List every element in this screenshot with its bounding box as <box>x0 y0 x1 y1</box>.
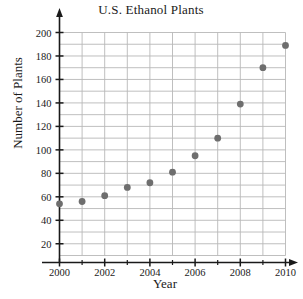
data-point <box>101 192 108 199</box>
data-point <box>79 198 86 205</box>
x-axis-tick-label: 2004 <box>130 267 170 278</box>
x-axis-tick-label: 2006 <box>175 267 215 278</box>
y-axis-tick-label: 20 <box>18 238 52 249</box>
y-axis-arrow-icon <box>56 8 63 17</box>
data-point <box>282 42 289 49</box>
data-point <box>237 101 244 108</box>
chart-container: U.S. Ethanol Plants Number of Plants Yea… <box>0 0 302 299</box>
data-point <box>147 179 154 186</box>
y-axis-tick-label: 60 <box>18 191 52 202</box>
y-axis-tick-label: 80 <box>18 168 52 179</box>
y-axis-tick-label: 100 <box>18 144 52 155</box>
y-axis-tick-label: 120 <box>18 121 52 132</box>
y-axis-tick-label: 180 <box>18 50 52 61</box>
x-axis-tick-label: 2010 <box>266 267 303 278</box>
x-axis-tick-label: 2000 <box>40 267 80 278</box>
y-axis-tick-label: 200 <box>18 27 52 38</box>
data-point <box>169 169 176 176</box>
data-point <box>56 200 63 207</box>
data-point <box>192 152 199 159</box>
x-axis-tick-label: 2008 <box>220 267 260 278</box>
gridlines <box>60 33 286 256</box>
data-point <box>214 135 221 142</box>
y-axis-tick-label: 160 <box>18 74 52 85</box>
data-point <box>124 184 131 191</box>
y-axis-tick-label: 40 <box>18 215 52 226</box>
axes <box>42 8 298 266</box>
x-axis-arrow-icon <box>289 259 298 266</box>
x-axis-tick-label: 2002 <box>85 267 125 278</box>
y-axis-tick-label: 140 <box>18 97 52 108</box>
data-point <box>260 64 267 71</box>
